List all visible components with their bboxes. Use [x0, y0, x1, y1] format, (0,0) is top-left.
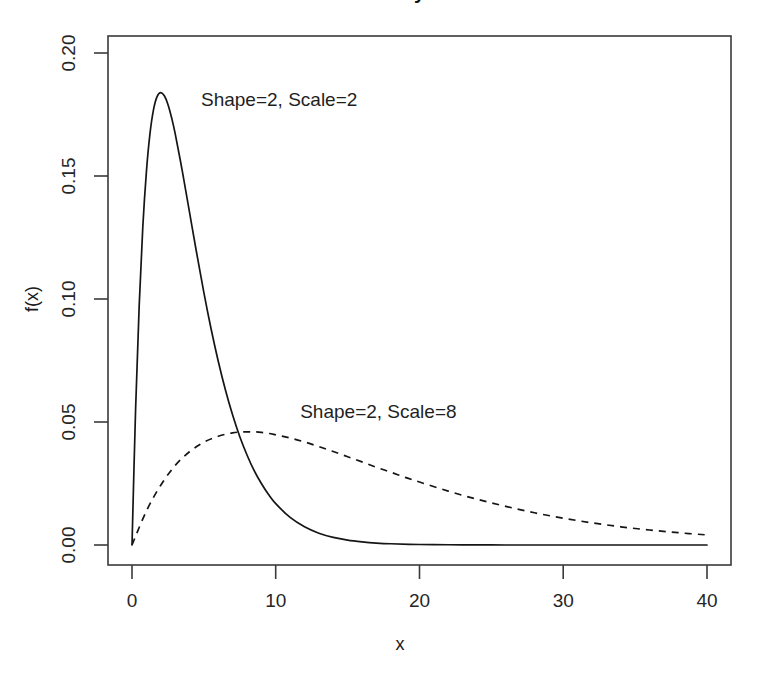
- x-tick-label-40: 40: [696, 590, 717, 611]
- y-tick-label-010: 0.10: [58, 281, 79, 318]
- chart-title-text: Gamma Density Functions: [274, 0, 526, 3]
- x-tick-label-20: 20: [409, 590, 430, 611]
- y-tick-label-005: 0.05: [58, 404, 79, 441]
- y-tick-label-015: 0.15: [58, 158, 79, 195]
- x-tick-label-0: 0: [127, 590, 138, 611]
- x-tick-label-10: 10: [265, 590, 286, 611]
- y-axis-title: f(x): [22, 286, 42, 312]
- series-annotation-shape2-scale2: Shape=2, Scale=2: [201, 89, 357, 110]
- gamma-density-plot: Gamma Density Functions 0 10 20 30 40: [0, 0, 758, 676]
- plot-background: [0, 0, 758, 676]
- chart-figure: Gamma Density Functions 0 10 20 30 40: [0, 0, 758, 676]
- x-tick-label-30: 30: [553, 590, 574, 611]
- y-tick-label-020: 0.20: [58, 35, 79, 72]
- chart-title: Gamma Density Functions: [274, 0, 526, 3]
- y-tick-label-000: 0.00: [58, 527, 79, 564]
- x-axis-title: x: [396, 634, 405, 654]
- series-annotation-shape2-scale8: Shape=2, Scale=8: [300, 401, 456, 422]
